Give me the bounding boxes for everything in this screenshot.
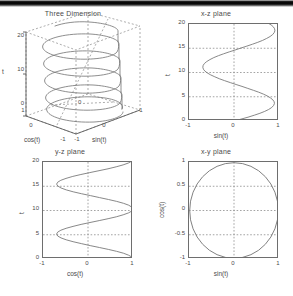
axis-label-t-xz: t [164,74,171,76]
tick-xy-y-1: 1 [164,157,185,163]
tick-yz-x-0: 0 [78,260,96,266]
tick-yz-x-1: 1 [123,260,141,266]
tick-yz-y-15: 15 [22,181,39,187]
x-y-plane-axes [188,161,278,258]
y-z-plane-title: y-z plane [10,148,130,155]
axis-label-t-yz: t [18,212,25,214]
tick-xy-x-0: 0 [224,260,242,266]
axis-label-sin-xy: sin(t) [214,270,228,277]
axis-label-cos-xy: cos(t) [158,202,165,218]
tick-xz-y-15: 15 [168,43,185,49]
subplot-x-z-plane: x-z plane 20 15 10 5 0 t - [146,8,293,148]
subplot-y-z-plane: y-z plane 20 15 10 5 0 t -1 0 1 c [0,146,147,296]
tick-yz-y-10: 10 [22,205,39,211]
tick-xz-x-1: 1 [269,122,287,128]
tick-yz-y-5: 5 [22,230,39,236]
tick-xy-x-m1: -1 [179,260,197,266]
y-z-plane-axes [42,161,132,258]
subplot-three-dimension: Three Dimension 20 10 0 t 1 0 -1 cos(t) … [0,10,146,148]
subplot-x-y-plane: x-y plane 1 0.5 0 -0.5 -1 cos(t) -1 0 1 … [146,146,293,296]
tick-yz-x-m1: -1 [33,260,51,266]
y-z-plane-svg [43,162,132,258]
x-z-plane-svg [189,24,278,120]
tick-xy-y-0: 0 [164,205,185,211]
tick-xy-y-m05: -0.5 [164,230,185,236]
figure-canvas: Three Dimension 20 10 0 t 1 0 -1 cos(t) … [0,0,293,296]
tick-xz-x-0: 0 [224,122,242,128]
x-z-plane-title: x-z plane [156,10,276,17]
x-y-plane-title: x-y plane [156,148,276,155]
axis-label-sin-xz: sin(t) [214,132,228,139]
x-z-plane-axes [188,23,278,120]
scan-artifact-bar [0,0,293,7]
tick-xz-x-m1: -1 [179,122,197,128]
axis-label-cos-yz: cos(t) [67,270,83,277]
tick-xy-x-1: 1 [269,260,287,266]
tick-xz-y-20: 20 [168,19,185,25]
x-y-plane-svg [189,162,278,258]
tick-xz-y-5: 5 [168,92,185,98]
three-dimension-svg [0,10,146,148]
tick-xy-y-05: 0.5 [164,181,185,187]
tick-yz-y-20: 20 [22,157,39,163]
tick-xz-y-10: 10 [168,67,185,73]
